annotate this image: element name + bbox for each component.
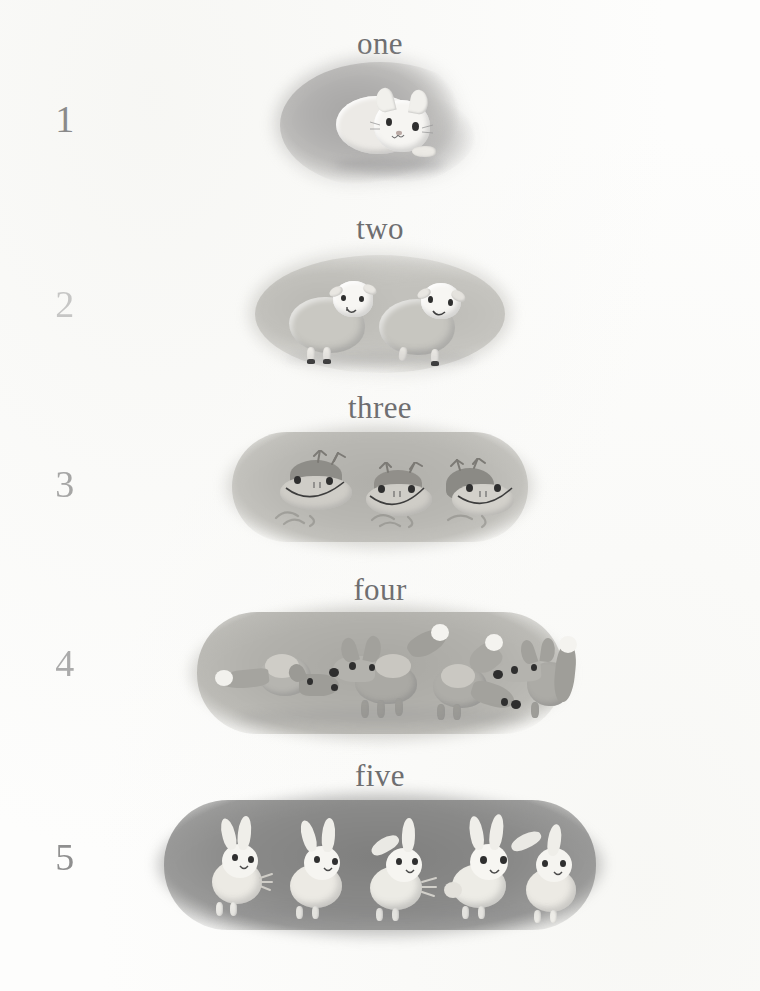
count-row-four: four 4: [0, 552, 760, 762]
count-row-three: three 3: [0, 370, 760, 570]
count-word-two: two: [0, 213, 760, 244]
fox-1: [219, 654, 349, 714]
numeral-3: 3: [30, 465, 100, 503]
count-word-three: three: [0, 392, 760, 423]
count-word-five: five: [0, 760, 760, 791]
bunny-face-1: [202, 820, 284, 916]
sheep-face-lines-1: [283, 273, 387, 361]
illustration-five-bunnies: [164, 800, 596, 930]
numeral-1: 1: [30, 100, 100, 138]
count-row-two: two 2: [0, 185, 760, 385]
illustration-three-frogs: [232, 432, 528, 542]
cat-1: [336, 78, 442, 164]
numeral-5: 5: [30, 838, 100, 876]
illustration-four-foxes: [197, 612, 563, 734]
numeral-2: 2: [30, 285, 100, 323]
illustration-two-sheep: [255, 255, 505, 373]
numeral-4: 4: [30, 644, 100, 682]
count-row-one: one 1: [0, 0, 760, 200]
count-word-one: one: [0, 28, 760, 59]
sheep-1: [283, 273, 387, 361]
illustration-one-cat: [280, 62, 480, 188]
count-word-four: four: [0, 574, 760, 605]
fox-4: [497, 636, 593, 720]
water-ripples: [232, 432, 528, 542]
counting-book-page: one 1: [0, 0, 760, 991]
bunny-1: [202, 820, 284, 916]
count-row-five: five 5: [0, 738, 760, 968]
